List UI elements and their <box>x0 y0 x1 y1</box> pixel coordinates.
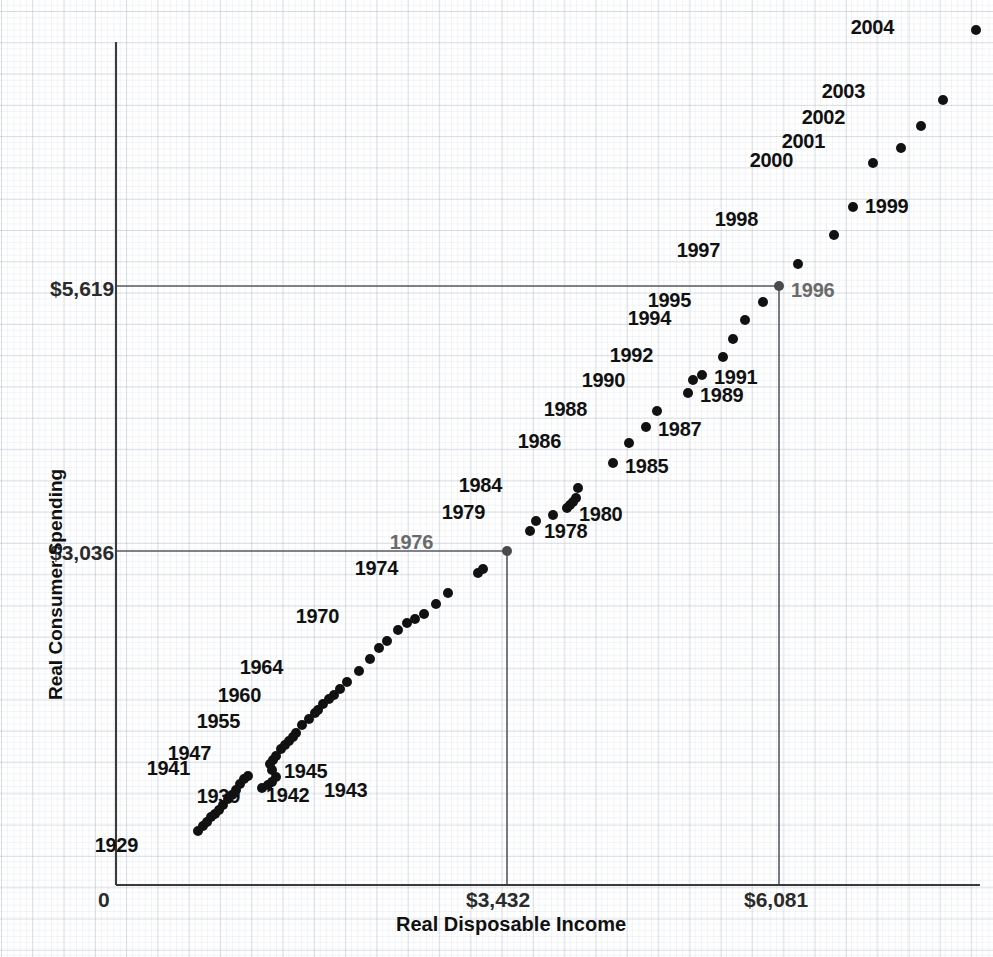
point-label-1960: 1960 <box>218 685 261 705</box>
data-point-1993 <box>728 334 738 344</box>
data-point-1986 <box>624 438 634 448</box>
data-point-1963 <box>342 677 352 687</box>
x-tick-label-zero: 0 <box>98 889 110 910</box>
data-point-1971 <box>419 609 429 619</box>
point-label-1997: 1997 <box>677 240 720 260</box>
data-point-1976 <box>502 546 512 556</box>
point-label-1999: 1999 <box>865 196 908 216</box>
data-point-1988 <box>652 406 662 416</box>
data-point-1941 <box>243 771 253 781</box>
data-point-1987 <box>641 422 651 432</box>
x-tick-label-6081: $6,081 <box>744 889 808 910</box>
data-point-1992 <box>718 352 728 362</box>
data-point-1970 <box>410 614 420 624</box>
point-label-1991: 1991 <box>714 367 757 387</box>
data-point-1990 <box>688 375 698 385</box>
point-label-1989: 1989 <box>700 385 743 405</box>
point-label-1974: 1974 <box>355 558 398 578</box>
point-label-1990: 1990 <box>582 370 625 390</box>
point-label-1996: 1996 <box>791 280 834 300</box>
data-point-2000 <box>868 158 878 168</box>
x-axis-title: Real Disposable Income <box>396 914 626 934</box>
point-label-1984: 1984 <box>459 475 502 495</box>
point-label-2004: 2004 <box>851 17 894 37</box>
point-label-1986: 1986 <box>518 431 561 451</box>
data-point-2004 <box>971 25 981 35</box>
y-axis-title: Real Consumer Spending <box>46 469 65 700</box>
point-label-1985: 1985 <box>625 456 668 476</box>
data-point-1973 <box>443 588 453 598</box>
data-point-1996 <box>774 281 784 291</box>
data-point-1967 <box>382 636 392 646</box>
point-label-1988: 1988 <box>544 399 587 419</box>
point-label-1970: 1970 <box>296 606 339 626</box>
data-point-2002 <box>916 121 926 131</box>
point-label-1987: 1987 <box>658 419 701 439</box>
x-tick-label-3432: $3,432 <box>466 889 530 910</box>
point-label-1964: 1964 <box>240 657 283 677</box>
data-point-1975 <box>478 564 488 574</box>
data-point-1965 <box>365 654 375 664</box>
data-points-group <box>193 25 981 836</box>
point-label-1979: 1979 <box>442 502 485 522</box>
axes-group <box>116 42 980 885</box>
point-label-2002: 2002 <box>802 107 845 127</box>
data-point-1999 <box>848 202 858 212</box>
y-tick-label-5619: $5,619 <box>50 278 114 299</box>
data-point-1989 <box>683 388 693 398</box>
data-point-1991 <box>697 370 707 380</box>
point-label-1939: 1939 <box>197 786 240 806</box>
point-label-1998: 1998 <box>715 209 758 229</box>
point-label-1943: 1943 <box>324 780 367 800</box>
data-point-1984 <box>573 483 583 493</box>
point-label-1976: 1976 <box>390 532 433 552</box>
data-point-1994 <box>740 315 750 325</box>
point-label-1980: 1980 <box>579 504 622 524</box>
data-point-2001 <box>896 143 906 153</box>
data-point-1977 <box>525 526 535 536</box>
data-point-1979 <box>548 510 558 520</box>
point-label-1995: 1995 <box>648 290 691 310</box>
data-point-1985 <box>608 458 618 468</box>
data-point-1997 <box>793 259 803 269</box>
point-label-1929: 1929 <box>95 835 138 855</box>
data-point-1972 <box>431 599 441 609</box>
point-label-2003: 2003 <box>822 81 865 101</box>
data-point-1964 <box>354 666 364 676</box>
scatter-chart-figure: 1929193919411942194319451947195519601964… <box>0 0 993 957</box>
point-label-1947: 1947 <box>168 743 211 763</box>
data-point-2003 <box>938 95 948 105</box>
point-label-1992: 1992 <box>610 345 653 365</box>
data-point-1966 <box>374 643 384 653</box>
point-label-1994: 1994 <box>628 308 671 328</box>
point-label-2000: 2000 <box>750 150 793 170</box>
point-label-1955: 1955 <box>197 711 240 731</box>
data-point-1978 <box>531 516 541 526</box>
data-point-1954 <box>291 728 301 738</box>
data-point-1995 <box>758 297 768 307</box>
point-label-2001: 2001 <box>782 131 825 151</box>
data-point-1983 <box>571 493 581 503</box>
data-point-1968 <box>393 625 403 635</box>
point-label-1942: 1942 <box>266 785 309 805</box>
data-point-1998 <box>829 230 839 240</box>
point-label-1945: 1945 <box>284 761 327 781</box>
